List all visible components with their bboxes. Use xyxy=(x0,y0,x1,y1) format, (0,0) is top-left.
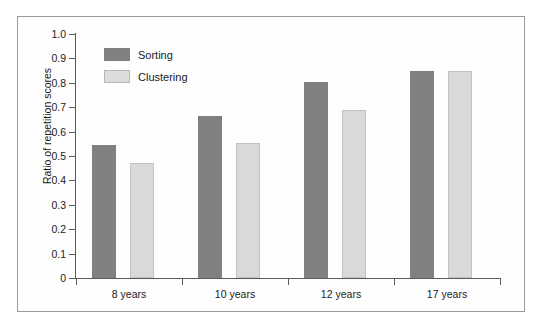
x-axis-separator-tick xyxy=(394,279,395,285)
y-axis-tick xyxy=(69,156,75,157)
y-axis-tick-label-text: 0.2 xyxy=(36,224,66,235)
y-axis-tick-label: 1.0 xyxy=(36,29,66,40)
y-axis-tick-label-text: 1.0 xyxy=(36,29,66,40)
bar-clustering-8-years xyxy=(130,163,154,278)
legend-item-clustering: Clustering xyxy=(104,69,224,84)
x-axis-group-label: 8 years xyxy=(76,288,182,300)
y-axis-tick-label-text: 0 xyxy=(36,273,66,284)
legend-label-clustering: Clustering xyxy=(138,71,188,83)
bar-clustering-10-years xyxy=(236,143,260,278)
x-axis-group-label: 10 years xyxy=(182,288,288,300)
bar-chart-figure: Ratio of repetition scores 1.00.90.80.70… xyxy=(0,0,542,329)
y-axis-tick-label-text: 0.1 xyxy=(36,249,66,260)
y-axis-tick-label-text: 0.6 xyxy=(36,127,66,138)
y-axis-tick-label: 0.3 xyxy=(36,200,66,211)
y-axis-tick xyxy=(69,58,75,59)
bar-sorting-12-years xyxy=(304,82,328,278)
x-axis-separator-tick xyxy=(288,279,289,285)
y-axis-tick-label-text: 0.7 xyxy=(36,102,66,113)
y-axis-tick xyxy=(69,83,75,84)
y-axis-tick-label: 0 xyxy=(36,273,66,284)
y-axis-tick-label: 0.2 xyxy=(36,224,66,235)
y-axis-tick-label: 0.5 xyxy=(36,151,66,162)
x-axis-end-tick xyxy=(76,279,77,285)
y-axis-tick xyxy=(69,229,75,230)
legend-label-sorting: Sorting xyxy=(138,49,173,61)
y-axis-tick-label: 0.9 xyxy=(36,53,66,64)
y-axis-tick xyxy=(69,107,75,108)
y-axis-tick xyxy=(69,205,75,206)
y-axis-tick xyxy=(69,254,75,255)
bar-clustering-17-years xyxy=(448,71,472,278)
legend-swatch-clustering xyxy=(104,70,130,83)
y-axis-tick xyxy=(69,132,75,133)
x-axis-group-label: 12 years xyxy=(288,288,394,300)
y-axis-tick-label-text: 0.9 xyxy=(36,53,66,64)
y-axis-tick xyxy=(69,34,75,35)
y-axis-tick-label-text: 0.8 xyxy=(36,78,66,89)
bar-clustering-12-years xyxy=(342,110,366,278)
y-axis-tick-label: 0.8 xyxy=(36,78,66,89)
x-axis-end-tick xyxy=(500,279,501,285)
y-axis-tick-label-text: 0.4 xyxy=(36,175,66,186)
y-axis-tick-label: 0.6 xyxy=(36,127,66,138)
x-axis-group-label: 17 years xyxy=(394,288,500,300)
chart-legend: Sorting Clustering xyxy=(104,47,224,91)
bar-sorting-10-years xyxy=(198,116,222,278)
x-axis-separator-tick xyxy=(182,279,183,285)
bar-sorting-8-years xyxy=(92,145,116,278)
y-axis-tick xyxy=(69,278,75,279)
y-axis-tick-label-text: 0.3 xyxy=(36,200,66,211)
y-axis-tick-label: 0.7 xyxy=(36,102,66,113)
legend-item-sorting: Sorting xyxy=(104,47,224,62)
y-axis-tick-label: 0.4 xyxy=(36,175,66,186)
y-axis-tick-label-text: 0.5 xyxy=(36,151,66,162)
legend-swatch-sorting xyxy=(104,48,130,61)
y-axis-tick xyxy=(69,180,75,181)
bar-sorting-17-years xyxy=(410,71,434,278)
y-axis-tick-label: 0.1 xyxy=(36,249,66,260)
